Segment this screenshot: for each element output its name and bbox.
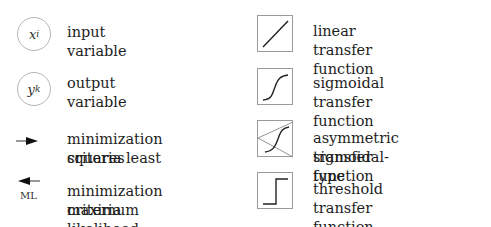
ml-tag: ML — [20, 190, 37, 201]
sigmoid-function-icon — [257, 68, 293, 105]
output-node-icon: yk — [17, 72, 51, 106]
linear-curve-icon — [258, 16, 294, 53]
arrow-left-icon — [17, 176, 41, 186]
sigmoid-curve-icon — [258, 69, 294, 106]
linear-label: linear transfer function — [313, 22, 374, 79]
variable-symbol: x — [29, 27, 36, 42]
variable-symbol: y — [28, 82, 35, 97]
sigmoid-label: sigmoidal transfer function — [313, 74, 384, 131]
arrow-right-icon — [16, 136, 40, 146]
output-variable-label: output variable — [67, 74, 127, 112]
threshold-label: threshold transfer function — [313, 180, 383, 227]
input-node-icon: xi — [17, 17, 51, 51]
variable-subscript: i — [36, 29, 39, 39]
linear-function-icon — [257, 15, 293, 52]
asym-sigmoid-function-icon — [257, 120, 293, 157]
least-squares-label-line2: squares — [67, 149, 125, 168]
asym-sigmoid-curve-icon — [258, 121, 294, 158]
threshold-curve-icon — [258, 173, 294, 210]
input-variable-label: input variable — [67, 23, 127, 61]
threshold-function-icon — [257, 172, 293, 209]
max-likelihood-label-line2: maximum likelihood — [67, 201, 139, 227]
variable-subscript: k — [35, 84, 40, 94]
